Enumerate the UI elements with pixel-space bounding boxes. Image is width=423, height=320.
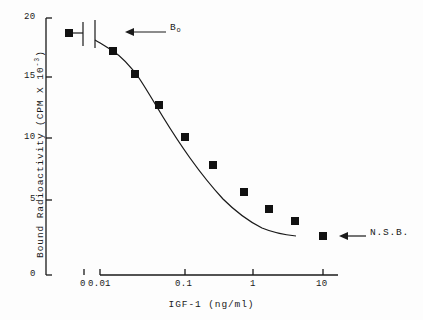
b0-annotation-subscript: o <box>177 26 182 34</box>
b0-annotation-label: Bo <box>170 22 182 34</box>
x-tick-label-001: 0.01 <box>88 279 111 289</box>
x-tick-label-0: 0 <box>80 279 86 289</box>
y-axis-title: Bound Radioactivity (CPM X 10-3) <box>34 34 46 274</box>
x-tick-label-1: 1 <box>250 279 256 289</box>
nsb-arrow <box>339 232 366 240</box>
chart-figure: 20 15 10 5 0 0 0.01 0.1 1 10 Bound Radio… <box>0 0 423 320</box>
chart-canvas <box>0 0 423 320</box>
y-axis <box>46 18 52 275</box>
nsb-annotation-label: N.S.B. <box>370 227 409 238</box>
nsb-data-point <box>319 232 327 240</box>
x-tick-label-01: 0.1 <box>175 279 192 289</box>
x-axis-title: IGF-1 (ng/ml) <box>0 299 423 310</box>
axis-break-marks <box>83 20 95 48</box>
b0-data-point <box>65 29 83 37</box>
data-markers <box>109 47 299 225</box>
y-tick-label-20: 20 <box>24 12 35 22</box>
y-axis-title-exponent: -3 <box>34 57 41 67</box>
y-axis-title-text: Bound Radioactivity (CPM X 10 <box>35 66 46 257</box>
y-axis-title-paren: ) <box>35 50 46 57</box>
x-tick-label-10: 10 <box>316 279 327 289</box>
x-axis <box>84 269 338 275</box>
b0-arrow <box>125 28 166 36</box>
